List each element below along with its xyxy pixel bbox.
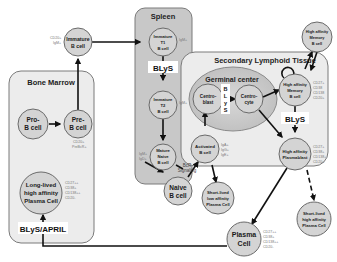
- svg-text:BLyS: BLyS: [285, 115, 306, 124]
- svg-text:High affinity: High affinity: [283, 149, 308, 154]
- svg-text:Plasma Cell: Plasma Cell: [302, 223, 326, 228]
- svg-text:CD20-: CD20-: [65, 196, 76, 200]
- svg-text:B cell: B cell: [290, 94, 301, 99]
- svg-text:Memory: Memory: [310, 35, 326, 40]
- svg-text:CD20+: CD20+: [313, 160, 324, 164]
- svg-text:IgD+: IgD+: [139, 157, 147, 161]
- svg-text:BLyS/APRIL: BLyS/APRIL: [20, 225, 66, 234]
- spleen-title: Spleen: [151, 12, 176, 21]
- svg-text:IgG+: IgG+: [221, 148, 229, 152]
- germinal-center-title: Germinal center: [205, 76, 259, 83]
- svg-text:CD138++: CD138++: [263, 240, 278, 244]
- svg-text:Pre-: Pre-: [72, 116, 85, 123]
- arrow-plasmablast-to-sl-high: [307, 170, 314, 200]
- svg-text:Centro-: Centro-: [241, 94, 258, 99]
- svg-text:CD138+: CD138+: [313, 155, 326, 159]
- svg-text:Naive: Naive: [157, 154, 169, 159]
- svg-text:IgM+: IgM+: [179, 101, 187, 105]
- bone-marrow-region: Bone Marrow: [9, 71, 94, 243]
- svg-text:Pro-: Pro-: [27, 116, 40, 123]
- svg-text:PreBcR+: PreBcR+: [72, 145, 86, 149]
- svg-text:Mature: Mature: [156, 148, 170, 153]
- svg-text:CD27+: CD27+: [313, 145, 324, 149]
- svg-text:Immature: Immature: [154, 97, 174, 102]
- svg-text:Plasma: Plasma: [232, 231, 257, 238]
- blys-gc-label: B L y S: [221, 84, 230, 114]
- svg-text:B cell: B cell: [199, 150, 211, 155]
- svg-text:Centro-: Centro-: [200, 94, 217, 99]
- svg-text:High affinity: High affinity: [283, 82, 307, 87]
- svg-text:B cell: B cell: [157, 109, 168, 114]
- cell-pro-b: Pro- B cell: [18, 109, 48, 139]
- svg-text:IgM+: IgM+: [139, 152, 147, 156]
- svg-text:B cell: B cell: [157, 160, 168, 165]
- svg-text:High affinity: High affinity: [306, 29, 329, 34]
- svg-text:CD138: CD138: [313, 91, 324, 95]
- bone-marrow-title: Bone Marrow: [27, 78, 75, 87]
- svg-text:CD27++: CD27++: [65, 181, 78, 185]
- svg-text:T2: T2: [161, 103, 167, 108]
- cell-immature-b: Immature B cell CD20+ IgM+: [50, 28, 92, 56]
- svg-text:high affinity: high affinity: [24, 190, 59, 196]
- svg-text:CD20+: CD20+: [313, 96, 324, 100]
- svg-text:CD38: CD38: [313, 86, 322, 90]
- svg-text:B cell: B cell: [157, 46, 168, 51]
- svg-text:CD38+: CD38+: [263, 235, 274, 239]
- svg-text:Plasma Cell: Plasma Cell: [206, 202, 230, 207]
- cell-plasma: Plasma Cell CD27++ CD38+ CD138++ CD20-: [227, 222, 278, 256]
- cell-naive-b: Naive B cell: [164, 177, 192, 205]
- blys-slt-label: BLyS: [281, 112, 309, 124]
- cell-short-lived-low-affinity-pc: Short-lived low affinity Plasma Cell: [202, 182, 234, 214]
- cell-high-affinity-memory-outer: High affinity Memory B cell: [302, 22, 332, 52]
- secondary-lymphoid-title: Secondary Lymphoid Tissue: [214, 56, 316, 65]
- svg-text:Short-lived: Short-lived: [303, 211, 325, 216]
- svg-text:CD27++: CD27++: [263, 230, 276, 234]
- svg-text:Long-lived: Long-lived: [26, 182, 57, 188]
- svg-text:Short-lived: Short-lived: [207, 190, 229, 195]
- arrow-activated-to-sl-low: [212, 165, 216, 182]
- blys-spleen-label: BLyS: [148, 61, 178, 73]
- svg-text:Plasma Cell: Plasma Cell: [24, 198, 58, 204]
- svg-text:CD27+: CD27+: [313, 81, 324, 85]
- arrow-plasmablast-to-plasma: [252, 168, 287, 224]
- svg-text:Activated: Activated: [195, 144, 215, 149]
- svg-text:IgA+: IgA+: [221, 143, 229, 147]
- svg-text:IgM+: IgM+: [53, 41, 61, 45]
- cell-short-lived-high-affinity-pc: Short-lived high affinity Plasma Cell: [297, 202, 331, 236]
- svg-text:B cell: B cell: [69, 124, 87, 131]
- svg-text:IgM+: IgM+: [179, 38, 187, 42]
- svg-text:Signaling: Signaling: [178, 168, 197, 173]
- svg-text:Plasmablast: Plasmablast: [282, 155, 308, 160]
- svg-text:BLyS: BLyS: [153, 64, 174, 73]
- svg-text:high affinity: high affinity: [302, 217, 326, 222]
- svg-text:low affinity: low affinity: [207, 196, 230, 201]
- svg-text:T1: T1: [161, 40, 167, 45]
- svg-text:IgE+: IgE+: [221, 153, 229, 157]
- svg-text:B cell: B cell: [71, 43, 85, 49]
- svg-text:B: B: [224, 86, 228, 92]
- svg-text:CD138++: CD138++: [65, 191, 80, 195]
- svg-text:Cell: Cell: [238, 240, 251, 247]
- svg-text:cyte: cyte: [244, 100, 254, 105]
- svg-text:Memory: Memory: [287, 88, 303, 93]
- svg-text:Naive: Naive: [169, 184, 187, 191]
- svg-text:S: S: [224, 107, 228, 113]
- svg-text:Immature: Immature: [66, 36, 89, 42]
- svg-text:CD38+: CD38+: [313, 150, 324, 154]
- b-cell-development-diagram: Bone Marrow Spleen Secondary Lymphoid Ti…: [0, 0, 337, 262]
- svg-text:CD20-: CD20-: [263, 245, 274, 249]
- svg-text:CD20+: CD20+: [50, 36, 61, 40]
- svg-text:B cell: B cell: [24, 124, 42, 131]
- svg-text:Immature: Immature: [154, 34, 174, 39]
- svg-text:B cell: B cell: [312, 41, 322, 46]
- cell-centroblast: Centro- blast: [193, 84, 223, 114]
- svg-text:CD38+: CD38+: [65, 186, 76, 190]
- cell-centrocyte: Centro- cyte: [235, 85, 263, 113]
- svg-text:CD20+: CD20+: [73, 140, 84, 144]
- svg-text:blast: blast: [203, 100, 214, 105]
- svg-text:B cell: B cell: [169, 192, 187, 199]
- blys-april-label: BLyS/APRIL: [18, 222, 68, 234]
